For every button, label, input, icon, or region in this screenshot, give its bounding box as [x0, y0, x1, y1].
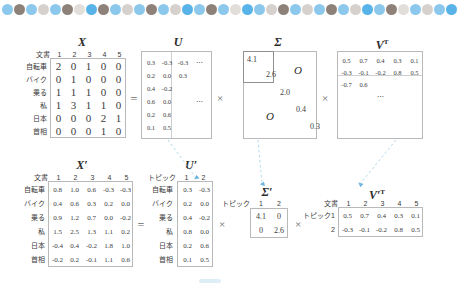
matrix-cell: 0.3 — [175, 69, 191, 82]
matrix-cell: -0.4 — [49, 239, 66, 253]
decorative-dot — [446, 4, 457, 15]
matrix-cell: -0.1 — [355, 67, 372, 79]
decorative-dot — [98, 4, 109, 15]
matrix-cell: 0.2 — [179, 197, 196, 211]
matrix-cell: 0.6 — [355, 79, 372, 91]
matrix-cell: 1 — [81, 86, 96, 99]
matrix-x-prime-row-label-5: 首相 — [12, 253, 48, 267]
matrix-cell: 0.0 — [196, 197, 213, 211]
matrix-cell: 0 — [96, 86, 111, 99]
matrix-cell: -0.2 — [117, 211, 134, 225]
matrix-sigma-prime-box: 4.1002.6 — [250, 208, 288, 238]
decorative-dot — [326, 4, 337, 15]
matrix-cell: 0.0 — [100, 211, 117, 225]
decorative-dot — [434, 4, 445, 15]
matrix-cell: 0.8 — [49, 183, 66, 197]
decorative-dot — [230, 4, 241, 15]
matrix-cell: 0.0 — [196, 225, 213, 239]
decorative-dot — [410, 4, 421, 15]
decorative-dot — [158, 4, 169, 15]
matrix-cell: 0.9 — [49, 211, 66, 225]
matrix-vt-prime-row-labels: トピック1 2 — [300, 209, 338, 237]
matrix-cell: 0 — [66, 60, 81, 73]
decorative-dot — [74, 4, 85, 15]
matrix-cell: 0.0 — [159, 95, 175, 108]
decorative-dot — [338, 4, 349, 15]
matrix-u-prime-row-label-0: 自転車 — [142, 183, 176, 197]
matrix-sigma-diagonal-value: 0.4 — [296, 105, 306, 114]
decorative-dot-band — [0, 2, 431, 17]
times-sign-2: × — [319, 92, 331, 104]
bottom-accent-bar — [199, 279, 221, 283]
matrix-cell: 1 — [96, 125, 111, 138]
matrix-x-prime-row-label-0: 自転車 — [12, 183, 48, 197]
decorative-dot — [134, 4, 145, 15]
decorative-dot — [218, 4, 229, 15]
matrix-cell: 1 — [66, 73, 81, 86]
matrix-cell: 1 — [81, 99, 96, 112]
matrix-cell: 0.4 — [143, 82, 159, 95]
matrix-x-row-label-1: バイク — [16, 73, 50, 86]
matrix-cell: 0.4 — [179, 211, 196, 225]
decorative-dot — [14, 4, 25, 15]
matrix-cell: -0.3 — [117, 183, 134, 197]
matrix-cell: 0 — [66, 112, 81, 125]
matrix-cell: -0.2 — [49, 253, 66, 267]
matrix-sigma-diagonal-value: 4.1 — [247, 55, 257, 64]
matrix-cell: 0.2 — [143, 69, 159, 82]
matrix-cell: -0.2 — [196, 211, 213, 225]
matrix-cell: 0.7 — [356, 209, 373, 223]
matrix-cell: 0.1 — [179, 253, 196, 267]
matrix-cell: 0 — [81, 112, 96, 125]
matrix-cell: 0.6 — [143, 95, 159, 108]
matrix-cell: 0.8 — [179, 225, 196, 239]
matrix-cell: 1.0 — [66, 183, 83, 197]
matrix-cell: -0.3 — [175, 56, 191, 69]
matrix-u-prime-row-label-1: バイク — [142, 197, 176, 211]
matrix-cell: 1.2 — [66, 211, 83, 225]
matrix-vt-title-superscript: T — [384, 38, 389, 46]
matrix-cell: -0.7 — [338, 79, 355, 91]
matrix-u-title: U — [148, 36, 208, 48]
matrix-sigma-zero-block: O — [266, 110, 274, 122]
matrix-cell: 0 — [66, 125, 81, 138]
matrix-cell: 1 — [51, 86, 66, 99]
matrix-cell: -0.1 — [356, 223, 373, 237]
matrix-cell: ⋯ — [191, 56, 207, 69]
matrix-cell: 0.5 — [407, 223, 424, 237]
matrix-u-prime-row-label-2: 乗る — [142, 211, 176, 225]
decorative-dot — [266, 4, 277, 15]
matrix-x-row-label-5: 首相 — [16, 125, 50, 138]
matrix-cell: 0.4 — [373, 209, 390, 223]
matrix-vt-prime-title-superscript: T — [380, 188, 385, 196]
matrix-cell: 0.2 — [143, 108, 159, 121]
matrix-cell: 3 — [66, 99, 81, 112]
decorative-dot — [2, 4, 13, 15]
matrix-vt-title-letter: V — [376, 38, 384, 52]
decorative-dot — [86, 4, 97, 15]
matrix-cell: 1.0 — [117, 239, 134, 253]
decorative-dot — [350, 4, 361, 15]
decorative-dot — [50, 4, 61, 15]
decorative-dot — [62, 4, 73, 15]
matrix-cell: 0.2 — [66, 253, 83, 267]
matrix-cell: 0.4 — [49, 197, 66, 211]
matrix-x-prime-row-labels: 自転車 バイク 乗る 私 日本 首相 — [12, 183, 48, 267]
matrix-cell: 0.2 — [179, 239, 196, 253]
matrix-u-box: 0.3-0.3-0.3⋯0.20.00.30.4-0.20.60.0⋯0.20.… — [141, 51, 212, 139]
decorative-dot — [386, 4, 397, 15]
matrix-sigma-prime-topic-label: トピック — [222, 199, 252, 208]
matrix-x-prime-row-label-3: 私 — [12, 225, 48, 239]
matrix-cell: 0.7 — [355, 55, 372, 67]
matrix-x-prime-box: 0.81.00.6-0.3-0.30.40.60.30.20.00.91.20.… — [48, 181, 133, 267]
matrix-cell: 2 — [96, 112, 111, 125]
matrix-cell: 2 — [51, 60, 66, 73]
matrix-cell: ⋯ — [191, 95, 207, 108]
matrix-cell: 1 — [66, 86, 81, 99]
matrix-cell: 1.8 — [100, 239, 117, 253]
matrix-cell: 1 — [111, 112, 126, 125]
arrow-vt-to-vt-prime — [360, 140, 396, 184]
decorative-dot — [242, 4, 253, 15]
equals-sign-top: = — [128, 92, 140, 107]
matrix-cell: 0 — [111, 73, 126, 86]
